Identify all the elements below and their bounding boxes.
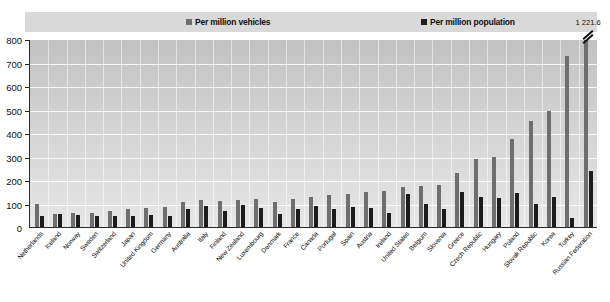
bar-per-million-population[interactable]: [259, 208, 263, 227]
bar-group[interactable]: [304, 40, 322, 227]
bar-group[interactable]: [414, 40, 432, 227]
bar-group[interactable]: [67, 40, 85, 227]
bar-group[interactable]: [121, 40, 139, 227]
x-axis-tick: Finland: [213, 229, 231, 302]
bar-group[interactable]: [524, 40, 542, 227]
bar-per-million-population[interactable]: [241, 205, 245, 227]
bar-per-million-vehicles[interactable]: [529, 121, 533, 227]
bar-group[interactable]: [561, 40, 579, 227]
bar-per-million-population[interactable]: [351, 207, 355, 227]
bar-per-million-population[interactable]: [113, 216, 117, 227]
bar-group[interactable]: [542, 40, 560, 227]
bar-per-million-vehicles[interactable]: [144, 208, 148, 227]
bar-per-million-population[interactable]: [168, 216, 172, 227]
bar-group[interactable]: [158, 40, 176, 227]
bar-per-million-population[interactable]: [515, 193, 519, 227]
bar-group[interactable]: [268, 40, 286, 227]
bar-per-million-vehicles[interactable]: [547, 111, 551, 227]
bar-group[interactable]: [341, 40, 359, 227]
bar-group[interactable]: [48, 40, 66, 227]
legend-item-per-million-population: Per million population: [421, 17, 515, 27]
bar-per-million-population[interactable]: [186, 209, 190, 227]
bar-per-million-population[interactable]: [406, 194, 410, 227]
bar-per-million-vehicles[interactable]: [455, 173, 459, 227]
bar-per-million-population[interactable]: [332, 209, 336, 227]
bar-group[interactable]: [487, 40, 505, 227]
bar-per-million-vehicles[interactable]: [163, 207, 167, 227]
bar-per-million-population[interactable]: [40, 216, 44, 227]
bar-per-million-population[interactable]: [552, 197, 556, 227]
bar-per-million-vehicles[interactable]: [71, 213, 75, 227]
bar-per-million-vehicles[interactable]: [437, 185, 441, 227]
bar-per-million-population[interactable]: [278, 214, 282, 227]
bar-per-million-population[interactable]: [369, 208, 373, 227]
bar-per-million-vehicles[interactable]: [236, 200, 240, 227]
bar-group[interactable]: [469, 40, 487, 227]
bar-per-million-vehicles[interactable]: [492, 157, 496, 227]
bar-per-million-vehicles[interactable]: [346, 194, 350, 227]
bar-per-million-vehicles[interactable]: [108, 211, 112, 227]
bar-per-million-vehicles[interactable]: [291, 199, 295, 227]
bar-per-million-population[interactable]: [296, 209, 300, 227]
bar-per-million-population[interactable]: [58, 214, 62, 227]
x-axis-tick: Sweden: [85, 229, 103, 302]
bar-per-million-vehicles[interactable]: [565, 56, 569, 227]
bar-group[interactable]: [213, 40, 231, 227]
bar-group[interactable]: [250, 40, 268, 227]
bar-per-million-population[interactable]: [76, 215, 80, 227]
x-axis-category-label: Korea: [540, 230, 557, 247]
bar-per-million-vehicles[interactable]: [90, 213, 94, 227]
bar-per-million-vehicles[interactable]: [309, 197, 313, 227]
bar-group[interactable]: [378, 40, 396, 227]
bar-per-million-population[interactable]: [149, 215, 153, 227]
bar-group[interactable]: [323, 40, 341, 227]
bar-group[interactable]: [506, 40, 524, 227]
bar-group[interactable]: [103, 40, 121, 227]
bar-per-million-population[interactable]: [534, 204, 538, 227]
bar-per-million-vehicles[interactable]: [419, 186, 423, 227]
bar-per-million-vehicles[interactable]: [181, 202, 185, 227]
bar-per-million-vehicles[interactable]: [126, 209, 130, 227]
bar-per-million-population[interactable]: [223, 211, 227, 227]
bar-group[interactable]: [140, 40, 158, 227]
x-axis-tick: United States: [396, 229, 414, 302]
bar-group[interactable]: [433, 40, 451, 227]
bar-per-million-vehicles[interactable]: [474, 159, 478, 227]
bar-per-million-vehicles[interactable]: [382, 191, 386, 227]
bar-per-million-vehicles[interactable]: [35, 204, 39, 227]
bar-per-million-population[interactable]: [131, 216, 135, 227]
bar-per-million-population[interactable]: [589, 171, 593, 227]
bar-per-million-vehicles[interactable]: [218, 201, 222, 227]
bar-per-million-vehicles[interactable]: [364, 192, 368, 227]
bar-per-million-population[interactable]: [95, 216, 99, 227]
bar-group[interactable]: [195, 40, 213, 227]
bar-per-million-population[interactable]: [387, 213, 391, 227]
bar-per-million-population[interactable]: [460, 192, 464, 227]
bar-per-million-population[interactable]: [314, 206, 318, 227]
bar-group[interactable]: [231, 40, 249, 227]
bar-per-million-vehicles[interactable]: [510, 139, 514, 227]
bar-group[interactable]: [85, 40, 103, 227]
bar-group[interactable]: 1 221.6: [579, 40, 597, 227]
bar-group[interactable]: [176, 40, 194, 227]
bar-per-million-population[interactable]: [497, 198, 501, 227]
bar-group[interactable]: [359, 40, 377, 227]
bar-per-million-vehicles[interactable]: [327, 195, 331, 227]
x-axis-tick: Spain: [341, 229, 359, 302]
bar-per-million-vehicles[interactable]: [273, 202, 277, 227]
bar-per-million-vehicles[interactable]: [254, 199, 258, 227]
bar-per-million-population[interactable]: [479, 197, 483, 227]
bar-per-million-population[interactable]: [424, 204, 428, 227]
bar-per-million-vehicles[interactable]: [53, 214, 57, 227]
bar-group[interactable]: [286, 40, 304, 227]
bar-per-million-population[interactable]: [442, 209, 446, 227]
bar-per-million-vehicles[interactable]: [584, 40, 588, 227]
bar-group[interactable]: [30, 40, 48, 227]
bar-group[interactable]: [396, 40, 414, 227]
bar-per-million-population[interactable]: [204, 206, 208, 227]
bar-per-million-vehicles[interactable]: [401, 187, 405, 227]
x-axis-line: [29, 227, 597, 228]
bar-group[interactable]: [451, 40, 469, 227]
bar-per-million-vehicles[interactable]: [199, 200, 203, 227]
bar-per-million-population[interactable]: [570, 218, 574, 227]
